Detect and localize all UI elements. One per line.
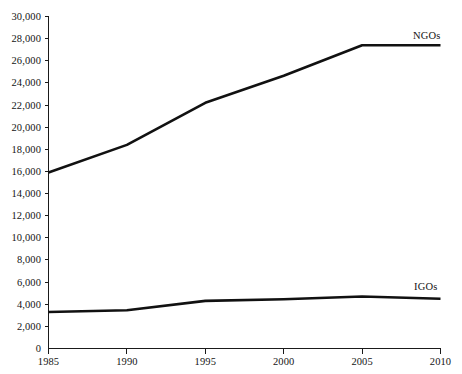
x-tick-label: 2010	[418, 356, 462, 367]
chart-plot-area	[0, 0, 462, 374]
y-tick-label: 10,000	[0, 232, 41, 243]
y-tick-label: 0	[0, 343, 41, 354]
y-tick-label: 8,000	[0, 254, 41, 265]
y-tick-label: 12,000	[0, 210, 41, 221]
x-tick-label: 1985	[26, 356, 72, 367]
x-tick-label: 1995	[182, 356, 228, 367]
x-tick-label: 1990	[104, 356, 150, 367]
y-tick-label: 30,000	[0, 11, 41, 22]
y-tick-label: 4,000	[0, 299, 41, 310]
x-axis-ticks	[49, 349, 441, 354]
y-tick-label: 28,000	[0, 33, 41, 44]
y-tick-label: 26,000	[0, 55, 41, 66]
series-lines	[49, 45, 441, 312]
axes-group	[49, 17, 441, 349]
x-tick-label: 2000	[261, 356, 307, 367]
series-label-igos: IGOs	[414, 281, 438, 292]
x-tick-label: 2005	[339, 356, 385, 367]
y-tick-label: 24,000	[0, 77, 41, 88]
y-tick-label: 20,000	[0, 122, 41, 133]
y-tick-label: 18,000	[0, 144, 41, 155]
y-axis-ticks	[45, 17, 49, 327]
y-tick-label: 22,000	[0, 100, 41, 111]
series-line-igos	[49, 296, 441, 311]
series-line-ngos	[49, 45, 441, 172]
y-tick-label: 2,000	[0, 321, 41, 332]
y-tick-label: 14,000	[0, 188, 41, 199]
y-tick-label: 16,000	[0, 166, 41, 177]
series-label-ngos: NGOs	[413, 30, 441, 41]
line-chart: 02,0004,0006,0008,00010,00012,00014,0001…	[0, 0, 462, 374]
y-tick-label: 6,000	[0, 277, 41, 288]
